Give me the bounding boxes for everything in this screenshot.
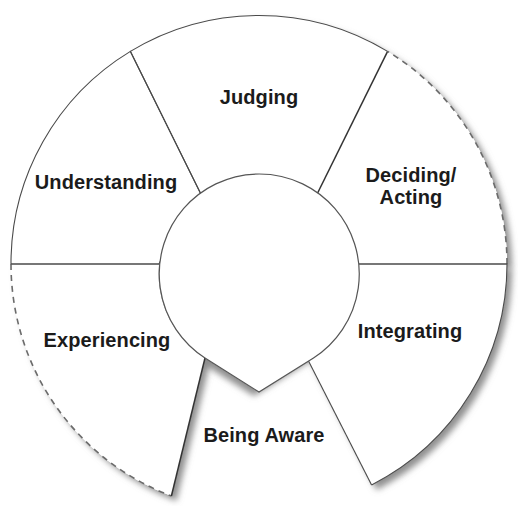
circular-process-diagram: Judging Deciding/ Acting Integrating Bei… — [0, 0, 518, 506]
wheel-graphic — [0, 0, 518, 506]
